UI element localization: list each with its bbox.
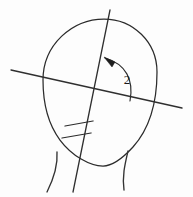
diagram-canvas: 2: [0, 0, 193, 197]
diagram-background: [0, 0, 193, 197]
head-angle-diagram: 2: [0, 0, 193, 197]
angle-label: 2: [124, 72, 131, 87]
